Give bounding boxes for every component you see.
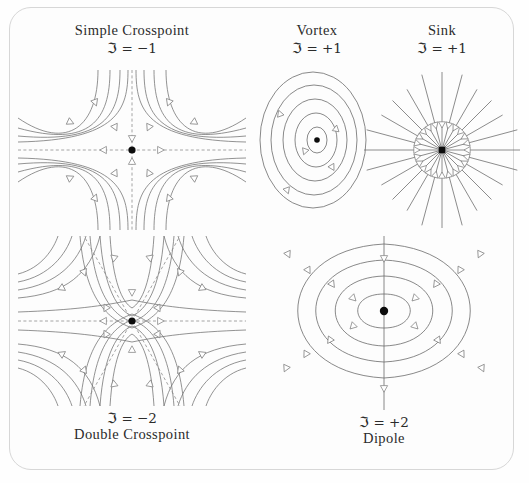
dipole-loops-left: [298, 244, 384, 378]
panel-title-double-crosspoint: Double Crosspoint: [18, 426, 246, 444]
singularity-dot: [128, 317, 135, 324]
panel-index-double-crosspoint: ℑ = −2: [18, 410, 246, 426]
sink-ray: [443, 75, 463, 148]
sink-arrowhead: [444, 122, 452, 130]
sink-arrowhead: [439, 172, 446, 178]
panel-title-simple-crosspoint: Simple Crosspoint: [18, 22, 246, 40]
sink-arrowhead: [414, 152, 422, 160]
singularity-dot: [128, 146, 135, 153]
panel-title-sink: Sink: [372, 22, 512, 40]
vortex-arrowheads: [275, 109, 340, 195]
sink-ray: [422, 75, 442, 148]
monkey-saddle-field-diagram: [18, 236, 246, 406]
sink-arrowhead: [414, 139, 422, 147]
sink-arrowhead: [431, 170, 439, 178]
sink-arrowhead: [464, 147, 470, 154]
sink-arrowhead: [431, 122, 439, 130]
figure-canvas: Simple Crosspoint ℑ = −1: [0, 0, 529, 483]
singularity-dot: [439, 147, 446, 154]
sink-ray: [443, 152, 463, 225]
sink-field-diagram: [372, 70, 512, 230]
panel-index-vortex: ℑ = +1: [258, 40, 376, 56]
sink-ray: [367, 151, 440, 171]
sink-ray: [444, 130, 517, 150]
singularity-dot: [380, 307, 388, 315]
panel-title-vortex: Vortex: [258, 22, 376, 40]
sink-arrowhead: [444, 170, 452, 178]
caption-dipole: ℑ = +2 Dipole: [268, 414, 500, 448]
panel-simple-crosspoint: Simple Crosspoint ℑ = −1: [18, 22, 246, 232]
sink-arrowhead: [462, 152, 470, 160]
dipole-field-diagram: [268, 236, 500, 410]
sink-arrowhead: [462, 139, 470, 147]
singularity-dot: [314, 137, 320, 143]
sink-ray: [422, 152, 442, 225]
panel-index-simple-crosspoint: ℑ = −1: [18, 40, 246, 56]
vortex-field-diagram: [258, 70, 376, 210]
panel-title-dipole: Dipole: [268, 430, 500, 448]
caption-sink: Sink ℑ = +1: [372, 22, 512, 56]
caption-simple-crosspoint: Simple Crosspoint ℑ = −1: [18, 22, 246, 56]
sink-ray: [367, 130, 440, 150]
caption-double-crosspoint: ℑ = −2 Double Crosspoint: [18, 410, 246, 444]
dipole-loops-right: [384, 244, 470, 378]
saddle-field-diagram: [18, 70, 246, 230]
sink-arrowhead: [414, 147, 420, 154]
caption-vortex: Vortex ℑ = +1: [258, 22, 376, 56]
sink-arrowhead: [439, 122, 446, 128]
vortex-orbits: [260, 72, 366, 208]
panel-index-sink: ℑ = +1: [372, 40, 512, 56]
panel-dipole: ℑ = +2 Dipole: [268, 236, 500, 464]
panel-index-dipole: ℑ = +2: [268, 414, 500, 430]
sink-ray: [444, 151, 517, 171]
panel-double-crosspoint: ℑ = −2 Double Crosspoint: [18, 236, 246, 464]
panel-vortex: Vortex ℑ = +1: [258, 22, 376, 222]
panel-sink: Sink ℑ = +1: [372, 22, 512, 232]
